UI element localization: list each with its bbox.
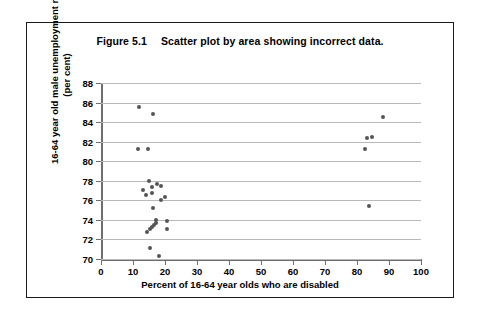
figure-number: Figure 5.1 (96, 35, 147, 47)
figure-caption: Figure 5.1Scatter plot by area showing i… (27, 35, 453, 47)
x-tick (101, 260, 102, 265)
x-tick-label: 100 (406, 266, 436, 277)
x-tick-label: 0 (86, 266, 116, 277)
scatter-point (367, 204, 371, 208)
scatter-point (163, 195, 167, 199)
x-tick (165, 260, 166, 265)
scatter-point (150, 191, 154, 195)
scatter-point (363, 147, 367, 151)
gridline-y (101, 83, 421, 84)
x-tick-label: 60 (278, 266, 308, 277)
x-tick (133, 260, 134, 265)
y-tick-label: 88 (59, 78, 93, 89)
gridline-y (101, 122, 421, 123)
scatter-point (151, 112, 155, 116)
y-tick-label: 84 (59, 117, 93, 128)
scatter-point (141, 188, 145, 192)
scatter-plot-area (101, 83, 421, 259)
scatter-point (365, 136, 369, 140)
x-tick (197, 260, 198, 265)
y-tick-label: 72 (59, 234, 93, 245)
x-tick-label: 30 (182, 266, 212, 277)
x-tick (261, 260, 262, 265)
x-tick-label: 40 (214, 266, 244, 277)
x-tick (229, 260, 230, 265)
y-tick-label: 80 (59, 156, 93, 167)
y-tick-label: 74 (59, 214, 93, 225)
y-tick-label: 76 (59, 195, 93, 206)
scatter-point (148, 246, 152, 250)
gridline-y (101, 239, 421, 240)
y-tick-label: 78 (59, 175, 93, 186)
x-tick (421, 260, 422, 265)
y-tick-label: 82 (59, 136, 93, 147)
y-tick-label: 86 (59, 97, 93, 108)
scatter-point (150, 185, 154, 189)
scatter-point (144, 193, 148, 197)
scatter-point (165, 227, 169, 231)
gridline-y (101, 161, 421, 162)
scatter-point (151, 206, 155, 210)
gridline-y (101, 259, 421, 260)
scatter-point (137, 105, 141, 109)
x-tick-label: 20 (150, 266, 180, 277)
scatter-point (159, 184, 163, 188)
scatter-point (147, 179, 151, 183)
scatter-point (159, 198, 163, 202)
x-tick (293, 260, 294, 265)
scatter-point (157, 254, 161, 258)
scatter-point (146, 147, 150, 151)
x-tick (325, 260, 326, 265)
x-tick-label: 10 (118, 266, 148, 277)
scatter-point (136, 147, 140, 151)
x-tick-label: 50 (246, 266, 276, 277)
figure-frame: Figure 5.1Scatter plot by area showing i… (26, 22, 454, 298)
x-tick (389, 260, 390, 265)
scatter-point (145, 230, 149, 234)
y-tick-label: 70 (59, 254, 93, 265)
x-tick (357, 260, 358, 265)
scatter-point (370, 135, 374, 139)
figure-caption-text: Scatter plot by area showing incorrect d… (161, 35, 384, 47)
gridline-y (101, 220, 421, 221)
scatter-point (165, 219, 169, 223)
scatter-point (381, 115, 385, 119)
x-tick-label: 80 (342, 266, 372, 277)
x-tick-label: 70 (310, 266, 340, 277)
gridline-y (101, 200, 421, 201)
gridline-y (101, 103, 421, 104)
scatter-point (154, 221, 158, 225)
x-axis-label: Percent of 16-64 year olds who are disab… (27, 279, 453, 290)
gridline-y (101, 142, 421, 143)
x-tick-label: 90 (374, 266, 404, 277)
